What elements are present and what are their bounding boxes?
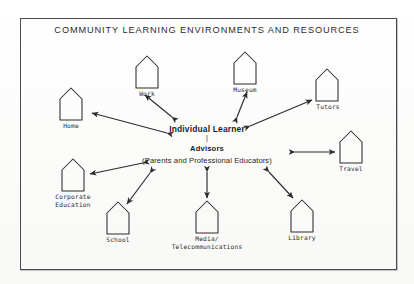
arrow-learner-museum [237, 92, 247, 117]
node-label-library: Library [288, 234, 315, 242]
house-icon-school [107, 202, 129, 234]
house-icon-home [60, 88, 82, 120]
arrow-learner-tutors [250, 100, 312, 126]
advisors-label: Advisors [190, 144, 224, 153]
house-icon-media [196, 201, 218, 233]
node-label-museum: Museum [233, 86, 257, 94]
house-icon-work [136, 56, 158, 88]
house-icon-corporate [62, 159, 84, 191]
node-label-school: School [106, 236, 130, 244]
hub-connector-line: | [206, 134, 208, 141]
individual-learner-label: Individual Learner [169, 124, 245, 134]
node-label-work: Work [139, 90, 155, 98]
house-icon-library [291, 200, 313, 232]
house-icon-museum [234, 52, 256, 84]
node-label-corporate-education: Corporate Education [55, 193, 90, 209]
node-label-home: Home [63, 122, 79, 130]
node-label-tutors: Tutors [316, 103, 340, 111]
arrow-advisors-corporate [90, 163, 143, 174]
advisors-detail-label: (Parents and Professional Educators) [142, 156, 272, 165]
arrow-advisors-library [269, 172, 293, 198]
node-label-media-telecommunications: Media/ Telecommunications [172, 235, 243, 251]
arrow-advisors-school [127, 173, 150, 204]
node-label-travel: Travel [339, 165, 363, 173]
arrow-learner-work [145, 95, 172, 117]
arrow-learner-home [92, 113, 167, 133]
diagram-page: COMMUNITY LEARNING ENVIRONMENTS AND RESO… [0, 0, 414, 284]
house-icon-travel [340, 131, 362, 163]
house-icon-tutors [316, 69, 338, 101]
